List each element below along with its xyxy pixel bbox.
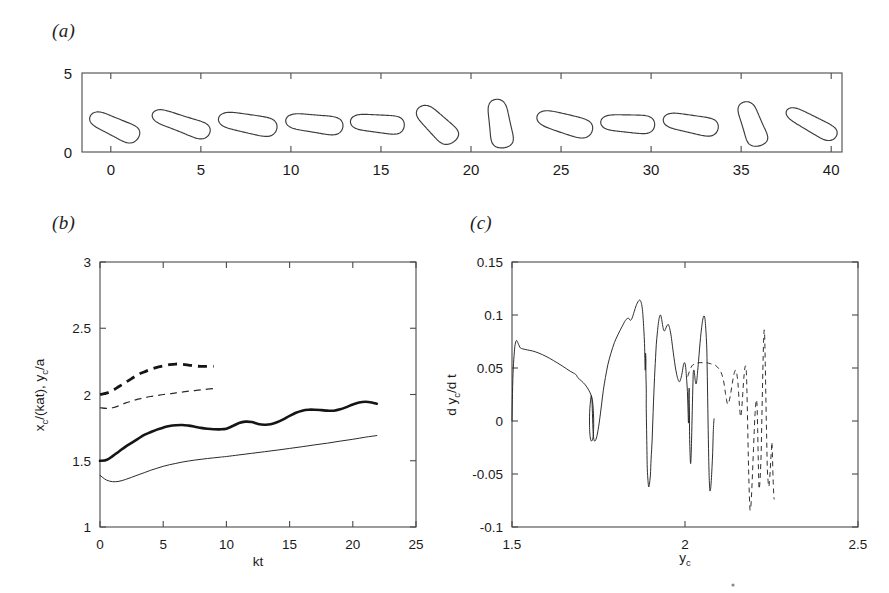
panel-b-ytick-3: 2.5: [72, 321, 91, 336]
panel-b-xtick-1: 5: [159, 537, 167, 552]
drop-contour-4: [286, 114, 343, 135]
panel-a-xtick-7: 35: [733, 161, 750, 178]
panel-b-axes: [100, 262, 416, 527]
panel-c-series: [512, 300, 774, 510]
svg-text:d yc/d t: d yc/d t: [444, 374, 462, 416]
drop-contour-3: [218, 112, 277, 136]
drop-contour-7: [488, 99, 513, 148]
panel-b-ytick-0: 1: [83, 520, 91, 535]
panel-b-ytick-1: 1.5: [72, 454, 91, 469]
panel-b-ytick-4: 3: [83, 255, 91, 270]
panel-a-xtick-6: 30: [643, 161, 660, 178]
drop-contour-10: [663, 113, 718, 136]
panel-b-curve-solid-thin: [100, 436, 377, 482]
stray-speck: [731, 583, 734, 586]
panel-b-plot: 0510152025 11.522.53 kt xc/(kat), yc/a: [0, 240, 440, 593]
panel-a-ytick-0: 0: [64, 144, 72, 161]
panel-b-x-tick-labels: 0510152025: [96, 537, 423, 552]
panel-c-ytick-0: -0.1: [480, 520, 503, 535]
drop-contour-8: [537, 111, 593, 138]
panel-b-tick-marks: [100, 262, 416, 527]
panel-c-ytick-5: 0.15: [477, 255, 503, 270]
panel-a-ytick-1: 5: [64, 65, 72, 82]
panel-b-xtick-0: 0: [96, 537, 104, 552]
panel-a-tick-marks: [111, 73, 831, 152]
drop-contour-2: [152, 110, 210, 139]
panel-b-series: [100, 364, 377, 482]
panel-b-curve-solid-thick: [100, 402, 377, 461]
panel-b-label: (b): [52, 212, 75, 234]
panel-c-ytick-2: 0: [495, 414, 503, 429]
drop-contour-5: [350, 114, 404, 134]
panel-a-axes: [82, 73, 842, 152]
panel-a-tick-labels: 0510152025303540: [107, 161, 840, 178]
panel-a-xtick-0: 0: [107, 161, 115, 178]
panel-a-y-tick-labels: 05: [64, 65, 72, 161]
panel-b-xlabel: kt: [253, 554, 264, 569]
panel-b-xtick-2: 10: [219, 537, 234, 552]
panel-c-ytick-1: -0.05: [472, 467, 503, 482]
panel-c-axes: [512, 262, 858, 527]
panel-a-xtick-2: 10: [283, 161, 300, 178]
figure-root: (a) (b) (c) 0510152025303540 05 05101520…: [0, 0, 889, 593]
panel-c-ytick-3: 0.05: [477, 361, 503, 376]
panel-c-y-tick-labels: -0.1-0.0500.050.10.15: [472, 255, 503, 535]
panel-a-xtick-3: 15: [373, 161, 390, 178]
panel-b-xtick-3: 15: [282, 537, 297, 552]
panel-c-ylabel: d yc/d t: [444, 374, 462, 416]
panel-c-label: (c): [470, 212, 492, 234]
panel-b-xtick-5: 25: [408, 537, 423, 552]
panel-c-xtick-0: 1.5: [503, 537, 522, 552]
panel-a-xtick-1: 5: [197, 161, 205, 178]
drop-contour-6: [416, 105, 458, 144]
panel-c-plot: 1.522.5 -0.1-0.0500.050.10.15 yc d yc/d …: [430, 240, 889, 593]
panel-a-label: (a): [52, 20, 75, 42]
svg-text:yc: yc: [679, 550, 691, 568]
panel-b-curve-dashed-thin: [100, 389, 214, 409]
panel-c-curve-solid: [512, 300, 714, 491]
panel-b-xtick-4: 20: [345, 537, 360, 552]
drop-contour-12: [786, 108, 837, 141]
drop-contour-9: [601, 115, 655, 134]
panel-b-y-tick-labels: 11.522.53: [72, 255, 91, 535]
panel-b-ylabel: xc/(kat), yc/a: [32, 358, 50, 431]
panel-a-drop-contours: [90, 99, 838, 148]
panel-a-xtick-8: 40: [823, 161, 840, 178]
panel-c-ytick-4: 0.1: [484, 308, 503, 323]
panel-c-xtick-2: 2.5: [849, 537, 868, 552]
svg-text:xc/(kat), yc/a: xc/(kat), yc/a: [32, 358, 50, 431]
panel-c-tick-marks: [512, 262, 858, 527]
panel-a-xtick-5: 25: [553, 161, 570, 178]
panel-c-curve-dashed: [688, 330, 775, 510]
panel-b-ytick-2: 2: [83, 388, 91, 403]
panel-c-xlabel: yc: [679, 550, 691, 568]
panel-a-xtick-4: 20: [463, 161, 480, 178]
drop-contour-1: [90, 112, 140, 143]
panel-a-plot: 0510152025303540 05: [0, 55, 889, 215]
drop-contour-11: [738, 102, 768, 147]
